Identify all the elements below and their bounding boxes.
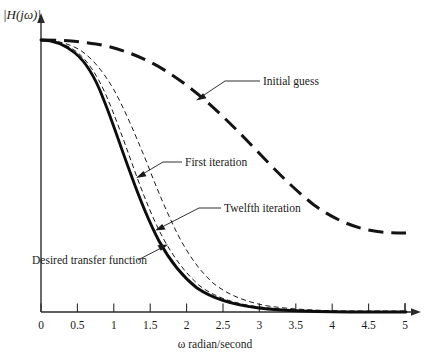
x-tick-label-1-5: 1.5 [143, 320, 157, 332]
plot-canvas [0, 0, 430, 362]
figure-container: |H(jω)| 0 0.5 1 1.5 2 2.5 3 3.5 4 4.5 5 … [0, 0, 430, 362]
annotation-initial-guess: Initial guess [263, 76, 319, 88]
x-tick-label-4: 4 [329, 320, 335, 332]
leader-first-iteration [136, 162, 182, 178]
annotation-first-iteration: First iteration [185, 157, 247, 169]
leader-initial-guess [196, 81, 260, 101]
leader-twelfth-iteration [155, 208, 221, 231]
x-axis-label: ω radian/second [178, 339, 252, 351]
x-tick-label-2: 2 [184, 320, 190, 332]
annotation-desired-transfer-function: Desired transfer function [32, 255, 147, 267]
x-axis-arrow [411, 308, 421, 316]
curve-desired-transfer-function [41, 40, 406, 312]
annotation-twelfth-iteration: Twelfth iteration [224, 203, 301, 215]
x-tick-label-0-5: 0.5 [70, 320, 84, 332]
x-tick-label-3-5: 3.5 [289, 320, 303, 332]
x-tick-label-4-5: 4.5 [361, 320, 375, 332]
x-tick-label-1: 1 [111, 320, 117, 332]
x-tick-label-2-5: 2.5 [216, 320, 230, 332]
x-tick-label-5: 5 [402, 320, 408, 332]
x-tick-label-0: 0 [38, 320, 44, 332]
x-tick-label-3: 3 [257, 320, 263, 332]
y-axis-label: |H(jω)| [3, 8, 41, 21]
